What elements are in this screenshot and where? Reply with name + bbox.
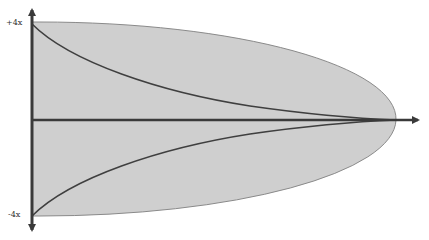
axis-label-top: +4x — [6, 18, 22, 27]
axis-label-bottom: -4x — [8, 210, 20, 219]
diagram-canvas — [0, 0, 429, 240]
